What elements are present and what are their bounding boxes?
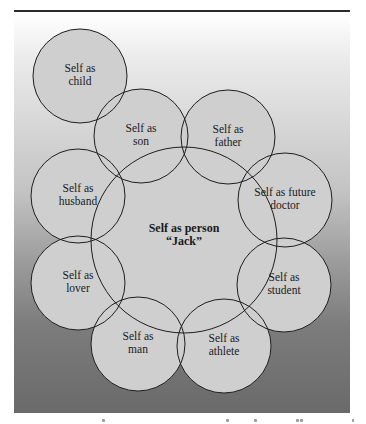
label-self-as-child-line1: Self as xyxy=(65,62,97,74)
label-self-as-future-doctor-line1: Self as future xyxy=(254,186,315,198)
label-self-as-father-line2: father xyxy=(215,136,242,148)
self-concept-diagram: Self aschildSelf assonSelf asfatherSelf … xyxy=(0,0,366,424)
label-self-as-lover-line2: lover xyxy=(66,282,90,294)
label-self-as-lover: Self aslover xyxy=(63,269,95,294)
label-self-as-child: Self aschild xyxy=(65,62,97,87)
label-self-as-father: Self asfather xyxy=(213,123,245,148)
label-self-as-son-line1: Self as xyxy=(126,122,158,134)
label-self-as-son-line2: son xyxy=(133,135,149,147)
label-self-as-student-line2: student xyxy=(267,284,301,296)
label-self-as-athlete: Self asathlete xyxy=(209,332,241,357)
label-self-as-husband-line2: husband xyxy=(59,195,98,207)
label-self-as-student: Self asstudent xyxy=(267,271,301,296)
label-self-as-student-line1: Self as xyxy=(269,271,301,283)
label-self-as-future-doctor-line2: doctor xyxy=(270,199,300,211)
label-self-as-husband: Self ashusband xyxy=(59,182,98,207)
label-self-as-person-jack-line1: Self as person xyxy=(149,221,220,235)
clipped-caption-text xyxy=(14,419,354,424)
label-self-as-husband-line1: Self as xyxy=(63,182,95,194)
label-self-as-father-line1: Self as xyxy=(213,123,245,135)
label-self-as-athlete-line2: athlete xyxy=(209,345,240,357)
label-self-as-lover-line1: Self as xyxy=(63,269,95,281)
label-self-as-man-line1: Self as xyxy=(123,330,155,342)
label-self-as-person-jack-line2: “Jack” xyxy=(166,234,202,248)
label-self-as-athlete-line1: Self as xyxy=(209,332,241,344)
label-self-as-man-line2: man xyxy=(128,343,148,355)
label-self-as-child-line2: child xyxy=(69,75,92,87)
